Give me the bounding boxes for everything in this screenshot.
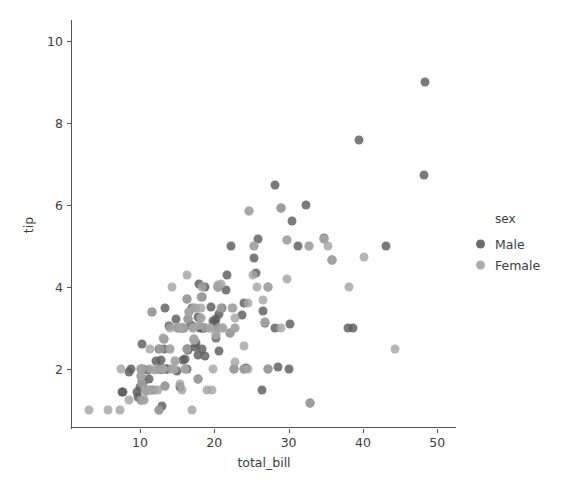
scatter-point [320, 235, 329, 244]
scatter-point [180, 365, 189, 374]
scatter-point [161, 304, 170, 313]
scatter-point [285, 365, 294, 374]
scatter-point [263, 283, 272, 292]
scatter-point [206, 324, 215, 333]
scatter-point [249, 271, 258, 280]
scatter-point [180, 355, 189, 364]
scatter-point [273, 362, 282, 371]
scatter-point [277, 204, 286, 213]
scatter-point [327, 255, 336, 264]
scatter-point [261, 318, 270, 327]
scatter-point [197, 292, 206, 301]
scatter-point [390, 344, 399, 353]
x-axis-tick-label: 50 [429, 435, 445, 450]
scatter-point [230, 324, 239, 333]
y-axis-tick-label: 6 [55, 198, 63, 213]
scatter-point [200, 352, 209, 361]
y-axis-tick [67, 123, 71, 124]
scatter-point [285, 320, 294, 329]
scatter-point [177, 324, 186, 333]
x-axis-tick [289, 429, 290, 433]
y-axis-tick-label: 10 [47, 34, 63, 49]
scatter-point [349, 324, 358, 333]
scatter-point [302, 201, 311, 210]
scatter-point [190, 335, 199, 344]
x-axis-label: total_bill [237, 455, 290, 470]
scatter-point [258, 296, 267, 305]
legend-entry-male[interactable]: Male [468, 234, 568, 254]
scatter-point [159, 334, 168, 343]
scatter-point [166, 344, 175, 353]
scatter-plot-area [72, 20, 456, 428]
scatter-point [287, 217, 296, 226]
scatter-point [168, 283, 177, 292]
scatter-point [147, 308, 156, 317]
scatter-point [155, 406, 164, 415]
x-axis-tick [363, 429, 364, 433]
legend-entry-label: Female [495, 258, 540, 273]
legend-title: sex [495, 212, 516, 226]
scatter-point [382, 242, 391, 251]
scatter-point [212, 330, 221, 339]
y-axis-tick [67, 287, 71, 288]
x-axis-tick [140, 429, 141, 433]
x-axis-tick [437, 429, 438, 433]
scatter-point [244, 298, 253, 307]
x-axis-tick [214, 429, 215, 433]
y-axis-tick [67, 369, 71, 370]
legend-entry-female[interactable]: Female [468, 255, 568, 275]
scatter-point [182, 344, 191, 353]
scatter-point [115, 406, 124, 415]
scatter-point [252, 283, 261, 292]
legend-marker-icon [476, 240, 485, 249]
scatter-point [231, 357, 240, 366]
y-axis-label: tip [21, 217, 36, 233]
y-axis-tick-label: 8 [55, 116, 63, 131]
scatter-point [125, 368, 134, 377]
scatter-point [104, 406, 113, 415]
scatter-point [283, 236, 292, 245]
scatter-point [283, 274, 292, 283]
scatter-point [197, 283, 206, 292]
scatter-point [222, 270, 231, 279]
scatter-point [245, 207, 254, 216]
scatter-point [144, 385, 153, 394]
scatter-point [294, 242, 303, 251]
scatter-point [239, 342, 248, 351]
scatter-point [124, 395, 133, 404]
scatter-point [194, 375, 203, 384]
scatter-point [84, 406, 93, 415]
scatter-point [420, 78, 429, 87]
y-axis-tick-label: 4 [55, 280, 63, 295]
scatter-point [206, 303, 215, 312]
legend-entry-label: Male [495, 237, 525, 252]
scatter-point [360, 253, 369, 262]
scatter-point [304, 242, 313, 251]
scatter-point [185, 307, 194, 316]
scatter-point [151, 366, 160, 375]
scatter-point [161, 382, 170, 391]
scatter-point [182, 270, 191, 279]
scatter-point [263, 365, 272, 374]
x-axis-tick-label: 40 [355, 435, 371, 450]
scatter-point [155, 344, 164, 353]
x-axis-tick-label: 20 [206, 435, 222, 450]
scatter-point [420, 171, 429, 180]
legend-marker-icon [476, 261, 485, 270]
scatter-point [169, 365, 178, 374]
scatter-point [146, 344, 155, 353]
scatter-point [182, 294, 191, 303]
scatter-point [226, 242, 235, 251]
scatter-point [271, 180, 280, 189]
scatter-point [344, 283, 353, 292]
scatter-point [240, 365, 249, 374]
y-axis-tick [67, 205, 71, 206]
scatter-point [215, 346, 224, 355]
scatter-point [171, 356, 180, 365]
scatter-point [194, 320, 203, 329]
scatter-point [257, 385, 266, 394]
scatter-point [136, 371, 145, 380]
scatter-point [276, 324, 285, 333]
scatter-point [216, 303, 225, 312]
scatter-point [139, 395, 148, 404]
